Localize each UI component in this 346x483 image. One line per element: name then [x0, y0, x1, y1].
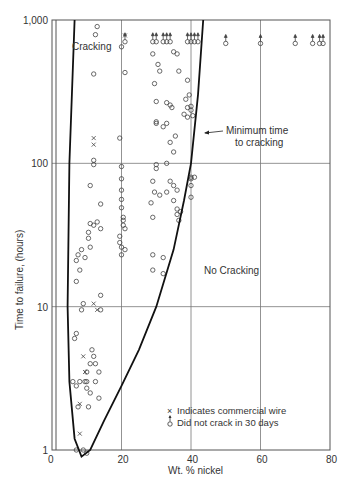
cracked-point-icon — [74, 258, 78, 262]
arrowhead-icon — [294, 34, 297, 37]
cracked-point-icon — [168, 179, 172, 183]
cracked-point-icon — [151, 253, 155, 257]
cracked-point-icon — [74, 331, 78, 335]
cracked-point-icon — [98, 293, 102, 297]
cracked-point-icon — [156, 62, 160, 66]
cracked-point-icon — [123, 70, 127, 74]
cracked-point-icon — [184, 97, 188, 101]
cracked-point-icon — [164, 190, 168, 194]
cracked-point-icon — [90, 348, 94, 352]
arrowhead-icon — [224, 34, 227, 37]
legend-x-icon: × — [167, 406, 172, 416]
cracked-point-icon — [88, 362, 92, 366]
cracked-point-icon — [152, 81, 156, 85]
cracked-point-icon — [151, 179, 155, 183]
cracked-point-icon — [171, 183, 175, 187]
arrowhead-icon — [151, 33, 154, 36]
arrowhead-icon — [162, 33, 165, 36]
legend-label-no-crack: Did not crack in 30 days — [177, 417, 279, 428]
cracked-point-icon — [93, 379, 97, 383]
grid-lines — [52, 20, 330, 450]
y-tick-label: 1 — [42, 445, 48, 456]
cracked-point-icon — [161, 255, 165, 259]
legend-label-commercial: Indicates commercial wire — [177, 405, 286, 416]
cracked-point-icon — [97, 396, 101, 400]
x-tick-label: 60 — [257, 454, 269, 465]
cracked-point-icon — [78, 379, 82, 383]
cracked-point-icon — [171, 150, 175, 154]
arrowhead-icon — [259, 34, 262, 37]
y-tick-label: 10 — [37, 302, 49, 313]
arrowhead-icon — [169, 33, 172, 36]
commercial-wire-x-icon — [92, 143, 96, 147]
cracked-point-icon — [86, 236, 90, 240]
cracked-point-icon — [151, 215, 155, 219]
no-crack-point-icon — [123, 40, 127, 44]
arrowhead-icon — [186, 33, 189, 36]
cracked-point-icon — [177, 69, 181, 73]
curve-label-line2: to cracking — [235, 137, 283, 148]
y-tick-label: 100 — [31, 158, 48, 169]
x-tick-label: 20 — [118, 454, 130, 465]
cracked-point-icon — [98, 226, 102, 230]
y-axis-label: Time to failure, (hours) — [14, 230, 25, 330]
commercial-wire-x-icon — [78, 432, 82, 436]
cracked-point-icon — [86, 230, 90, 234]
chart-canvas: 0204060801101001,000 Cracking No Crackin… — [0, 0, 346, 483]
cracked-point-icon — [78, 268, 82, 272]
cracked-point-icon — [151, 52, 155, 56]
region-label-cracking: Cracking — [72, 41, 111, 52]
cracked-point-icon — [158, 193, 162, 197]
curve-label-line1: Minimum time — [226, 125, 289, 136]
x-tick-label: 40 — [187, 454, 199, 465]
cracked-point-icon — [81, 301, 85, 305]
cracked-point-icon — [164, 121, 168, 125]
cracked-point-icon — [161, 125, 165, 129]
commercial-wire-x-icon — [81, 354, 85, 358]
x-tick-label: 0 — [48, 454, 54, 465]
cracked-point-icon — [175, 188, 179, 192]
cracked-point-icon — [85, 386, 89, 390]
cracked-point-icon — [72, 336, 76, 340]
cracked-point-icon — [151, 268, 155, 272]
no-crack-point-icon — [293, 41, 297, 45]
cracked-point-icon — [185, 115, 189, 119]
cracked-point-icon — [92, 158, 96, 162]
commercial-wire-x-icon — [92, 302, 96, 306]
cracked-point-icon — [152, 190, 156, 194]
cracked-point-icon — [149, 201, 153, 205]
cracked-point-icon — [92, 354, 96, 358]
arrowhead-icon — [197, 33, 200, 36]
cracked-point-icon — [98, 202, 102, 206]
cracked-point-icon — [97, 370, 101, 374]
arrowhead-icon — [165, 33, 168, 36]
y-tick-label: 1,000 — [23, 15, 48, 26]
cracked-point-icon — [74, 279, 78, 283]
arrowhead-icon — [311, 34, 314, 37]
cracked-point-icon — [79, 247, 83, 251]
cracked-point-icon — [93, 32, 97, 36]
cracked-point-icon — [88, 391, 92, 395]
cracked-point-icon — [123, 247, 127, 251]
x-tick-label: 80 — [326, 454, 338, 465]
cracked-point-icon — [88, 245, 92, 249]
no-crack-point-icon — [224, 41, 228, 45]
cracked-point-icon — [79, 308, 83, 312]
no-crack-point-icon — [310, 41, 314, 45]
region-label-no-cracking: No Cracking — [204, 265, 259, 276]
legend: × Indicates commercial wire Did not crac… — [167, 405, 286, 428]
x-axis-label: Wt. % nickel — [168, 465, 223, 476]
arrowhead-icon — [124, 33, 127, 36]
cracked-point-icon — [74, 384, 78, 388]
arrowhead-icon — [193, 33, 196, 36]
cracked-point-icon — [168, 140, 172, 144]
cracked-point-icon — [95, 220, 99, 224]
cracked-point-icon — [158, 69, 162, 73]
arrowhead-icon — [318, 34, 321, 37]
cracked-point-icon — [154, 99, 158, 103]
arrowhead-icon — [155, 33, 158, 36]
cracked-point-icon — [76, 253, 80, 257]
cracked-point-icon — [92, 72, 96, 76]
cracked-point-icon — [171, 198, 175, 202]
cracked-point-icon — [161, 271, 165, 275]
